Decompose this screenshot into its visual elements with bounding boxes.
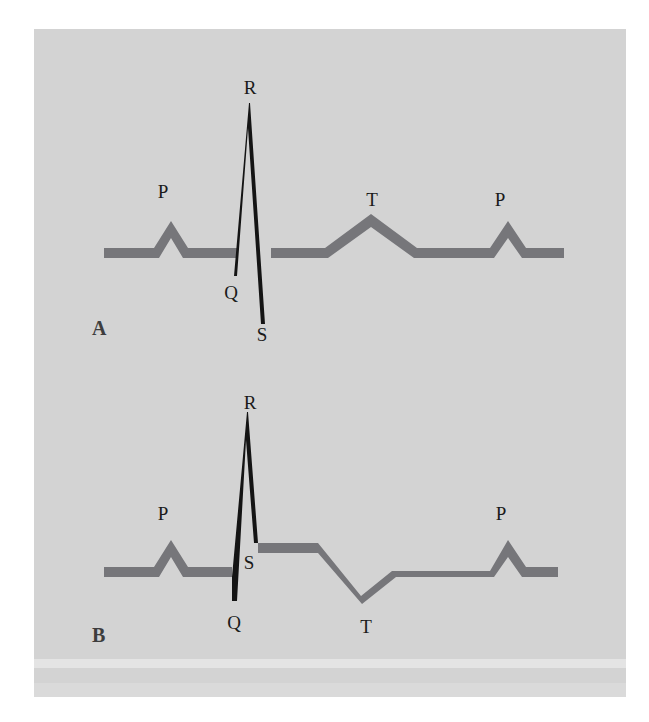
panel-b-t-wave-label: T	[353, 617, 379, 636]
panel-b: PRQSTP B	[0, 0, 649, 722]
panel-b-q-wave-label: Q	[221, 613, 247, 632]
panel-b-r-wave-label: R	[237, 393, 263, 412]
panel-b-ecg-ribbon	[104, 540, 558, 604]
ecg-figure: PRQSTP A PRQSTP B	[0, 0, 649, 722]
panel-b-p-wave-label-1: P	[150, 504, 176, 523]
panel-b-s-wave-label: S	[236, 553, 262, 572]
panel-b-waveform	[0, 0, 649, 722]
panel-b-letter: B	[92, 625, 105, 645]
panel-b-p-wave-label-2: P	[488, 504, 514, 523]
